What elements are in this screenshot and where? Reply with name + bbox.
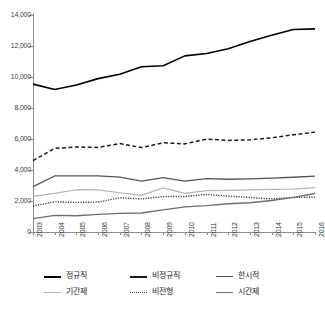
legend-row: 정규직 비정규직 한시적 [44,268,304,284]
legend-item-3[interactable]: 기간제 [44,288,130,296]
x-tick-label: 2016 [318,222,325,237]
legend-item-label: 기간제 [66,288,87,296]
x-tick-label: 2009 [166,222,173,237]
y-tick-label: 2,000 [0,197,31,204]
chart-legend: 정규직 비정규직 한시적 기간제 비전형 시간제 [44,268,304,300]
legend-item-label: 비정규직 [152,272,180,280]
x-tick-label: 2011 [210,223,217,237]
x-tick-mark [141,232,142,235]
series-line-5 [33,193,315,218]
x-tick-label: 2005 [79,222,86,237]
y-tick-label: 12,000 [0,42,31,49]
legend-line-icon [216,288,233,296]
x-tick-mark [207,232,208,235]
legend-item-1[interactable]: 비정규직 [130,272,216,280]
x-tick-mark [33,232,34,235]
x-tick-label: 2003 [36,222,43,237]
x-tick-label: 2012 [231,222,238,237]
x-tick-mark [250,232,251,235]
legend-item-4[interactable]: 비전형 [130,288,216,296]
x-tick-mark [163,232,164,235]
x-tick-label: 2013 [253,222,260,237]
y-tick-label: 14,000 [0,11,31,18]
y-axis-line [33,13,34,234]
legend-item-0[interactable]: 정규직 [44,272,130,280]
legend-item-label: 시간제 [238,288,259,296]
series-line-3 [33,188,315,197]
x-tick-label: 2004 [58,222,65,237]
x-tick-mark [293,232,294,235]
legend-line-icon [216,272,233,280]
legend-item-label: 정규직 [66,272,87,280]
x-tick-label: 2015 [296,222,303,237]
x-tick-label: 2007 [123,222,130,237]
y-tick-label: 6,000 [0,135,31,142]
series-line-0 [33,29,315,90]
y-tick-label: 10,000 [0,73,31,80]
x-tick-mark [120,232,121,235]
y-tick-label: 0 [0,228,31,235]
legend-item-5[interactable]: 시간제 [216,288,302,296]
x-tick-mark [315,232,316,235]
x-tick-label: 2006 [101,222,108,237]
x-tick-mark [98,232,99,235]
x-axis-line [33,232,315,233]
series-line-2 [33,176,315,187]
legend-line-icon [44,272,61,280]
series-line-1 [33,132,315,160]
legend-item-label: 한시적 [238,272,259,280]
legend-line-icon [130,272,147,280]
legend-line-icon [130,288,147,296]
x-tick-label: 2010 [188,222,195,237]
legend-line-icon [44,288,61,296]
x-tick-label: 2008 [144,222,151,237]
y-tick-label: 8,000 [0,104,31,111]
series-line-4 [33,194,315,206]
x-tick-mark [185,232,186,235]
legend-row: 기간제 비전형 시간제 [44,284,304,300]
x-tick-mark [272,232,273,235]
legend-item-2[interactable]: 한시적 [216,272,302,280]
x-tick-label: 2014 [275,222,282,237]
legend-item-label: 비전형 [152,288,173,296]
x-tick-mark [228,232,229,235]
x-tick-mark [76,232,77,235]
x-tick-mark [55,232,56,235]
y-tick-label: 4,000 [0,166,31,173]
